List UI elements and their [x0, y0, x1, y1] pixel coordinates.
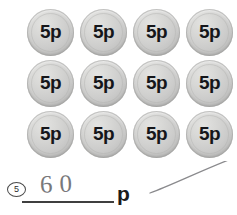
coin-face-label: 5p	[146, 124, 167, 143]
unit-label-pence: p	[117, 183, 130, 204]
question-number-badge: 5	[7, 182, 26, 197]
coin-row: 5p 5p 5p 5p	[27, 60, 233, 110]
coin-face-label: 5p	[146, 22, 167, 41]
coin-face-label: 5p	[93, 124, 114, 143]
coin-face-label: 5p	[40, 73, 61, 92]
coin-row: 5p 5p 5p 5p	[27, 111, 233, 161]
coin-5p[interactable]: 5p	[133, 9, 180, 56]
coin-face-label: 5p	[146, 73, 167, 92]
coin-5p[interactable]: 5p	[133, 111, 180, 158]
coin-5p[interactable]: 5p	[27, 60, 74, 107]
coin-face-label: 5p	[199, 73, 220, 92]
coin-face-label: 5p	[40, 124, 61, 143]
coin-grid: 5p 5p 5p 5p 5p 5p 5p 5p	[27, 9, 233, 161]
coin-5p[interactable]: 5p	[80, 9, 127, 56]
coin-5p[interactable]: 5p	[186, 9, 233, 56]
coin-5p[interactable]: 5p	[80, 111, 127, 158]
coin-5p[interactable]: 5p	[186, 111, 233, 158]
coin-face-label: 5p	[199, 22, 220, 41]
coin-5p[interactable]: 5p	[27, 9, 74, 56]
handwritten-answer-value[interactable]: 60	[40, 170, 80, 196]
coin-row: 5p 5p 5p 5p	[27, 9, 233, 59]
worksheet-page: 5p 5p 5p 5p 5p 5p 5p 5p	[0, 0, 237, 215]
coin-face-label: 5p	[93, 73, 114, 92]
answer-area: 5 60 p	[0, 161, 237, 215]
coin-5p[interactable]: 5p	[80, 60, 127, 107]
coin-5p[interactable]: 5p	[186, 60, 233, 107]
coin-face-label: 5p	[93, 22, 114, 41]
coin-5p[interactable]: 5p	[133, 60, 180, 107]
coin-5p[interactable]: 5p	[27, 111, 74, 158]
coin-face-label: 5p	[199, 124, 220, 143]
answer-line[interactable]	[22, 201, 114, 203]
coin-face-label: 5p	[40, 22, 61, 41]
